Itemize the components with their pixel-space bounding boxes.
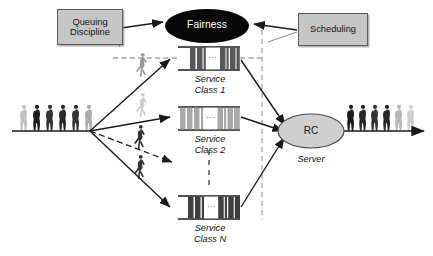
edge-split-to-class2: [90, 117, 170, 131]
service-class-1-ellipsis: ...: [206, 52, 220, 61]
server-sublabel: Server: [281, 154, 341, 164]
edge-scheduling-guide: [240, 32, 297, 58]
control-box-scheduling[interactable]: Scheduling: [298, 13, 368, 46]
edge-class1-to-server: [241, 60, 285, 125]
edge-classn-to-server: [241, 138, 284, 207]
edge-split-dashed: [90, 131, 172, 162]
service-class-1-label-line1: Service: [179, 74, 241, 84]
service-class-2-ellipsis: ...: [203, 112, 218, 121]
service-class-n-label-line1: Service: [179, 223, 241, 233]
service-class-1-label-line2: Class 1: [179, 85, 241, 95]
queuing-discipline-label: Queuing Discipline: [70, 17, 110, 38]
service-class-2-label-line2: Class 2: [179, 145, 241, 155]
inbound-crowd: [20, 105, 92, 131]
edge-class2-to-server: [241, 117, 283, 131]
server-label: RC: [281, 125, 341, 136]
service-class-n-ellipsis: ...: [204, 201, 219, 210]
outbound-crowd: [347, 105, 414, 131]
scheduling-label: Scheduling: [310, 24, 356, 34]
fairness-label: Fairness: [167, 19, 247, 31]
diagram-canvas: Queuing Discipline Scheduling Fairness R…: [0, 0, 433, 256]
edge-split-to-classn: [90, 131, 170, 207]
edge-scheduling-to-fairness: [254, 24, 297, 30]
edge-split-to-class1: [90, 59, 170, 131]
walking-figures: [134, 53, 146, 179]
edge-queuing-to-fairness: [121, 22, 163, 28]
control-box-queuing-discipline[interactable]: Queuing Discipline: [57, 9, 123, 45]
service-class-n-label-line2: Class N: [179, 234, 241, 244]
service-class-2-label-line1: Service: [179, 134, 241, 144]
